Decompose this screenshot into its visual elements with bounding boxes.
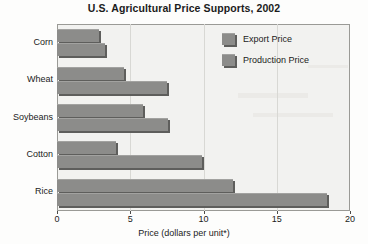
category-axis-labels: CornWheatSoybeansCottonRice	[0, 24, 53, 211]
legend-label: Export Price	[243, 34, 292, 44]
x-tick-label: 10	[198, 214, 208, 224]
category-label-soybeans: Soybeans	[0, 112, 53, 122]
bar	[57, 193, 327, 206]
bar	[57, 155, 202, 168]
bar	[57, 141, 116, 154]
category-label-rice: Rice	[0, 186, 53, 196]
bar	[57, 67, 124, 80]
bar	[57, 118, 168, 131]
legend-swatch-icon	[222, 33, 235, 45]
legend-item: Production Price	[222, 51, 340, 69]
category-label-cotton: Cotton	[0, 149, 53, 159]
x-tick-label: 5	[128, 214, 133, 224]
legend-item: Export Price	[222, 30, 340, 48]
x-axis-title: Price (dollars per unit*)	[0, 228, 368, 238]
chart-container: U.S. Agricultural Price Supports, 2002 C…	[0, 0, 368, 244]
chart-title: U.S. Agricultural Price Supports, 2002	[0, 2, 368, 14]
category-label-wheat: Wheat	[0, 74, 53, 84]
value-axis: 05101520	[57, 211, 350, 229]
bar	[57, 43, 105, 56]
x-tick-label: 15	[272, 214, 282, 224]
legend-swatch-icon	[222, 54, 235, 66]
legend-label: Production Price	[243, 55, 309, 65]
bar	[57, 179, 233, 192]
x-tick-label: 0	[54, 214, 59, 224]
bar	[57, 81, 167, 94]
legend: Export PriceProduction Price	[222, 30, 340, 72]
category-label-corn: Corn	[0, 37, 53, 47]
x-tick-label: 20	[345, 214, 355, 224]
bar	[57, 104, 143, 117]
bar	[57, 29, 99, 42]
